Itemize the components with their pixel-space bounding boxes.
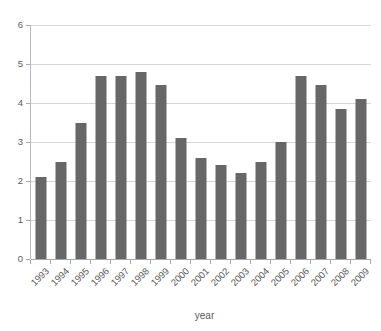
x-tick-mark-2005 bbox=[290, 260, 291, 264]
bar-slot bbox=[211, 25, 231, 259]
y-tick-mark-5 bbox=[26, 64, 30, 65]
bar-chart-figure: 0123456 19931994199519961997199819992000… bbox=[0, 0, 381, 331]
x-tick-mark-1993 bbox=[50, 260, 51, 264]
x-tick-mark-1996 bbox=[110, 260, 111, 264]
bar-slot bbox=[131, 25, 151, 259]
y-tick-mark-2 bbox=[26, 181, 30, 182]
x-tick-mark-1999 bbox=[170, 260, 171, 264]
x-tick-mark-2007 bbox=[330, 260, 331, 264]
bar-1998[interactable] bbox=[136, 72, 147, 259]
bar-2008[interactable] bbox=[336, 109, 347, 259]
y-tick-label-3: 3 bbox=[1, 137, 23, 147]
x-tick-mark-2006 bbox=[310, 260, 311, 264]
bar-1999[interactable] bbox=[156, 85, 167, 259]
y-tick-mark-1 bbox=[26, 220, 30, 221]
x-tick-mark-2003 bbox=[250, 260, 251, 264]
x-axis-title: year bbox=[0, 310, 381, 321]
y-tick-mark-4 bbox=[26, 103, 30, 104]
bar-slot bbox=[331, 25, 351, 259]
gridline-0 bbox=[31, 259, 371, 260]
y-tick-label-0: 0 bbox=[1, 254, 23, 264]
y-tick-label-4: 4 bbox=[1, 98, 23, 108]
bar-slot bbox=[171, 25, 191, 259]
bar-slot bbox=[291, 25, 311, 259]
bar-2003[interactable] bbox=[236, 173, 247, 259]
bar-2005[interactable] bbox=[276, 142, 287, 259]
bars-group bbox=[31, 25, 371, 259]
bar-2002[interactable] bbox=[216, 165, 227, 259]
bar-2001[interactable] bbox=[196, 158, 207, 259]
bar-slot bbox=[71, 25, 91, 259]
x-tick-mark-1997 bbox=[130, 260, 131, 264]
bar-1997[interactable] bbox=[116, 76, 127, 259]
x-axis-title-label: year bbox=[195, 310, 214, 321]
bar-2000[interactable] bbox=[176, 138, 187, 259]
x-tick-mark-2001 bbox=[210, 260, 211, 264]
y-tick-label-6: 6 bbox=[1, 20, 23, 30]
bar-slot bbox=[231, 25, 251, 259]
x-tick-mark-2004 bbox=[270, 260, 271, 264]
x-tick-mark-1998 bbox=[150, 260, 151, 264]
x-tick-mark-1995 bbox=[90, 260, 91, 264]
y-tick-label-2: 2 bbox=[1, 176, 23, 186]
bar-2004[interactable] bbox=[256, 162, 267, 260]
bar-slot bbox=[31, 25, 51, 259]
bar-1996[interactable] bbox=[96, 76, 107, 259]
bar-slot bbox=[191, 25, 211, 259]
bar-2007[interactable] bbox=[316, 85, 327, 259]
bar-slot bbox=[111, 25, 131, 259]
x-tick-mark-2008 bbox=[350, 260, 351, 264]
plot-area bbox=[30, 25, 370, 259]
bar-2006[interactable] bbox=[296, 76, 307, 259]
y-tick-mark-3 bbox=[26, 142, 30, 143]
bar-slot bbox=[51, 25, 71, 259]
bar-slot bbox=[351, 25, 371, 259]
bar-1993[interactable] bbox=[36, 177, 47, 259]
y-tick-label-1: 1 bbox=[1, 215, 23, 225]
bar-slot bbox=[91, 25, 111, 259]
bar-2009[interactable] bbox=[356, 99, 367, 259]
bar-slot bbox=[251, 25, 271, 259]
bar-slot bbox=[151, 25, 171, 259]
x-tick-mark-2009 bbox=[370, 260, 371, 264]
bar-slot bbox=[311, 25, 331, 259]
bar-slot bbox=[271, 25, 291, 259]
x-tick-mark-2002 bbox=[230, 260, 231, 264]
bar-1994[interactable] bbox=[56, 162, 67, 260]
x-tick-mark-1994 bbox=[70, 260, 71, 264]
x-tick-mark-origin bbox=[30, 260, 31, 264]
bar-1995[interactable] bbox=[76, 123, 87, 260]
y-tick-label-5: 5 bbox=[1, 59, 23, 69]
x-tick-mark-2000 bbox=[190, 260, 191, 264]
y-tick-mark-6 bbox=[26, 25, 30, 26]
